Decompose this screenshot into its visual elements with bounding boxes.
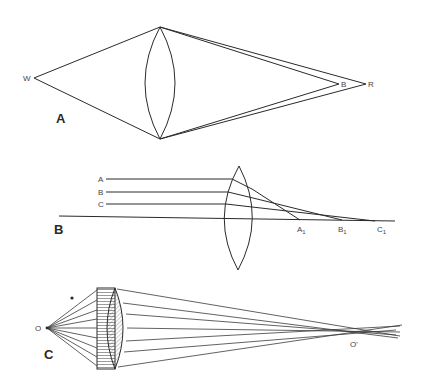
- panel-b: A B C A1 B1 C1 B: [54, 166, 395, 270]
- panel-c-dot: [70, 296, 73, 299]
- panel-a-lens: [145, 27, 175, 139]
- panel-a-ray-w-top: [34, 27, 160, 78]
- panel-b-label-ray-a: A: [98, 175, 104, 184]
- panel-c-label-o-prime: O': [350, 340, 358, 349]
- panel-c-title: C: [44, 347, 54, 362]
- panel-b-label-ray-b: B: [98, 188, 103, 197]
- panel-a-title: A: [56, 111, 66, 126]
- panel-a-ray-bottom-b: [160, 84, 339, 139]
- panel-a-ray-top-r: [160, 27, 366, 84]
- panel-b-label-c1: C1: [377, 225, 387, 235]
- panel-a-ray-w-bottom: [34, 78, 160, 139]
- panel-b-label-b1: B1: [338, 225, 347, 235]
- panel-a: W B R A: [23, 27, 374, 139]
- panel-b-label-a1: A1: [297, 225, 306, 235]
- panel-a-ray-bottom-r: [160, 84, 366, 139]
- panel-c: O O' C: [35, 288, 402, 369]
- panel-a-label-b: B: [341, 80, 346, 89]
- panel-c-incoming-rays: [47, 290, 97, 366]
- panel-c-point-o: [46, 327, 49, 330]
- optics-diagram: W B R A A B C A1 B1 C1 B: [0, 0, 423, 379]
- panel-a-label-r: R: [368, 80, 374, 89]
- panel-c-label-o: O: [35, 324, 41, 333]
- panel-b-ray-a: [106, 179, 300, 220]
- panel-c-outgoing-rays: [117, 289, 402, 367]
- panel-a-ray-top-b: [160, 27, 339, 84]
- panel-b-label-ray-c: C: [98, 200, 104, 209]
- panel-b-axis: [59, 216, 395, 221]
- panel-b-title: B: [54, 222, 63, 237]
- panel-a-label-w: W: [23, 74, 31, 83]
